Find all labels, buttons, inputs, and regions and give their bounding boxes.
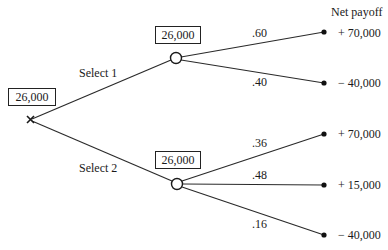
terminal-dot-icon xyxy=(321,182,326,187)
payoff-value: + 70,000 xyxy=(338,127,381,141)
payoff-value: + 70,000 xyxy=(338,26,381,40)
probability-label: .60 xyxy=(252,26,267,40)
decision-node-x-icon xyxy=(27,116,34,123)
chance-node-2-value-box: 26,000 xyxy=(155,151,201,169)
payoff-column-title: Net payoff xyxy=(331,5,382,19)
chance-node-2-icon xyxy=(172,179,183,190)
terminal-dot-icon xyxy=(321,232,326,237)
root-expected-value-box: 26,000 xyxy=(8,88,56,106)
terminal-dot-icon xyxy=(321,131,326,136)
branch-label-select-2: Select 2 xyxy=(79,161,117,175)
probability-label: .36 xyxy=(252,136,267,150)
payoff-value: − 40,000 xyxy=(338,228,381,242)
payoff-value: − 40,000 xyxy=(338,76,381,90)
terminal-dot-icon xyxy=(321,80,326,85)
terminal-dot-icon xyxy=(321,29,326,34)
branch-label-select-1: Select 1 xyxy=(79,66,117,80)
probability-label: .16 xyxy=(252,217,267,231)
outcome-line-2-2 xyxy=(183,184,324,185)
probability-label: .40 xyxy=(252,75,267,89)
probability-label: .48 xyxy=(252,168,267,182)
payoff-value: + 15,000 xyxy=(338,178,381,192)
chance-node-1-value-box: 26,000 xyxy=(155,26,201,44)
chance-node-1-icon xyxy=(171,53,182,64)
